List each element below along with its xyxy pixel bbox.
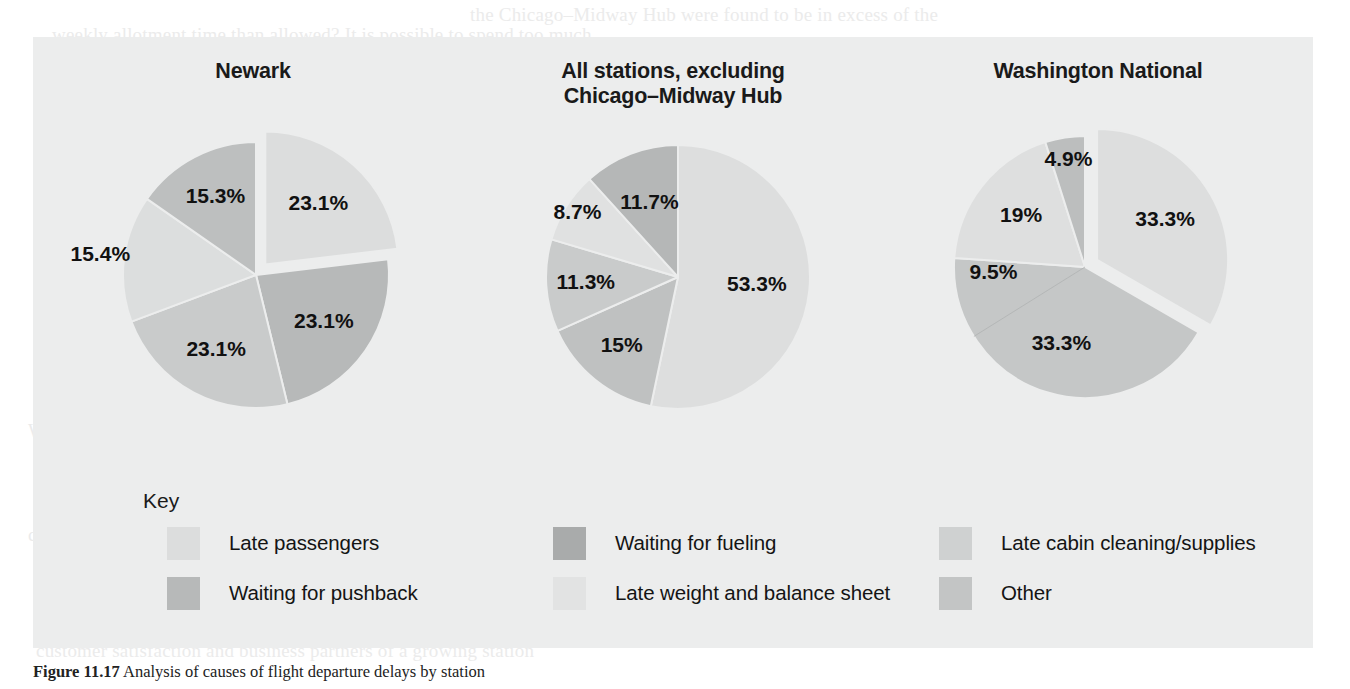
- pie-svg-all-stations: 53.3%15%11.3%8.7%11.7%: [463, 117, 883, 487]
- legend-swatch-icon: [939, 577, 972, 610]
- pie-area-newark: 23.1%23.1%23.1%15.4%15.3%: [43, 117, 463, 487]
- figure-caption-text: Analysis of causes of flight departure d…: [123, 662, 485, 681]
- pie-slice-label: 23.1%: [294, 309, 354, 332]
- pie-slice-label-secondary: 9.5%: [970, 260, 1018, 283]
- legend-item[interactable]: Waiting for pushback: [167, 572, 418, 614]
- legend-item[interactable]: Late cabin cleaning/supplies: [939, 522, 1256, 564]
- bleedthrough-line: the Chicago–Midway Hub were found to be …: [470, 4, 938, 26]
- pie-slice-label: 11.3%: [557, 270, 616, 293]
- pie-slice-label: 23.1%: [289, 191, 349, 214]
- chart-title-washington-national: Washington National: [888, 37, 1308, 117]
- legend-item[interactable]: Other: [939, 572, 1052, 614]
- legend-item[interactable]: Late passengers: [167, 522, 379, 564]
- legend-item[interactable]: Waiting for fueling: [553, 522, 776, 564]
- legend-title: Key: [143, 489, 1291, 513]
- pie-svg-newark: 23.1%23.1%23.1%15.4%15.3%: [43, 117, 463, 487]
- chart-title-line1: Washington National: [993, 59, 1202, 83]
- pie-slice-label: 4.9%: [1045, 147, 1093, 170]
- legend-item-label: Other: [1001, 581, 1052, 605]
- chart-title-line1: All stations, excluding: [561, 59, 785, 83]
- figure-caption: Figure 11.17 Analysis of causes of fligh…: [33, 662, 485, 682]
- legend-swatch-icon: [167, 527, 200, 560]
- charts-row: Newark 23.1%23.1%23.1%15.4%15.3% All sta…: [33, 37, 1313, 477]
- pie-chart-all-stations: All stations, excluding Chicago–Midway H…: [463, 37, 883, 477]
- pie-area-all-stations: 53.3%15%11.3%8.7%11.7%: [463, 117, 883, 487]
- chart-title-newark: Newark: [43, 37, 463, 117]
- legend-item-label: Late cabin cleaning/supplies: [1001, 531, 1256, 555]
- figure-caption-number: Figure 11.17: [33, 662, 120, 681]
- legend-swatch-icon: [939, 527, 972, 560]
- pie-area-washington-national: 33.3%33.3%19%4.9%9.5%: [888, 117, 1308, 487]
- legend-swatch-icon: [553, 527, 586, 560]
- legend-swatch-icon: [167, 577, 200, 610]
- pie-slice-label: 15.4%: [71, 242, 131, 265]
- legend-item-label: Waiting for fueling: [615, 531, 776, 555]
- pie-slice-label: 33.3%: [1032, 331, 1092, 354]
- legend-item-label: Late weight and balance sheet: [615, 581, 890, 605]
- pie-svg-washington-national: 33.3%33.3%19%4.9%9.5%: [888, 117, 1308, 487]
- pie-slice-label: 15%: [601, 333, 643, 356]
- legend-swatch-icon: [553, 577, 586, 610]
- chart-title-all-stations: All stations, excluding Chicago–Midway H…: [463, 37, 883, 117]
- legend-key: Key Late passengersWaiting for pushbackW…: [141, 489, 1291, 639]
- pie-slice-label: 11.7%: [620, 190, 679, 213]
- pie-slice-label: 53.3%: [727, 272, 787, 295]
- pie-slice-label: 8.7%: [554, 200, 602, 223]
- legend-item-label: Late passengers: [229, 531, 379, 555]
- legend-item-label: Waiting for pushback: [229, 581, 418, 605]
- pie-chart-newark: Newark 23.1%23.1%23.1%15.4%15.3%: [43, 37, 463, 477]
- legend-item[interactable]: Late weight and balance sheet: [553, 572, 890, 614]
- chart-title-line2: Chicago–Midway Hub: [463, 84, 883, 109]
- pie-slice-label: 15.3%: [186, 184, 246, 207]
- pie-slice-label: 19%: [1000, 203, 1042, 226]
- pie-chart-washington-national: Washington National 33.3%33.3%19%4.9%9.5…: [888, 37, 1308, 477]
- chart-title-line1: Newark: [215, 59, 290, 83]
- figure-panel: Newark 23.1%23.1%23.1%15.4%15.3% All sta…: [33, 37, 1313, 648]
- pie-slice-label: 23.1%: [186, 337, 246, 360]
- pie-slice-label: 33.3%: [1135, 207, 1195, 230]
